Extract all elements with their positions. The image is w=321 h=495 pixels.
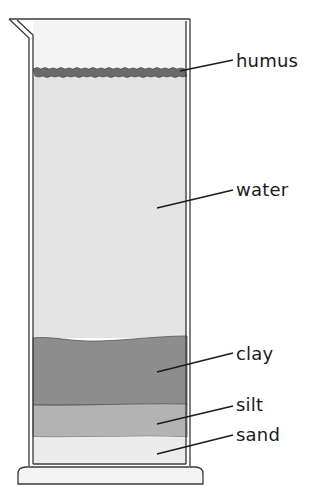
sand-layer [33,436,187,463]
sand-label: sand [236,426,280,444]
cylinder-base [18,467,203,484]
water-label: water [236,181,288,199]
humus-label: humus [236,52,298,70]
silt-layer [33,404,187,437]
air-region [33,21,187,68]
clay-label: clay [236,345,273,363]
humus-leader [180,60,233,71]
humus-layer [33,68,187,78]
measuring-cylinder [0,0,321,495]
silt-label: silt [236,396,263,414]
